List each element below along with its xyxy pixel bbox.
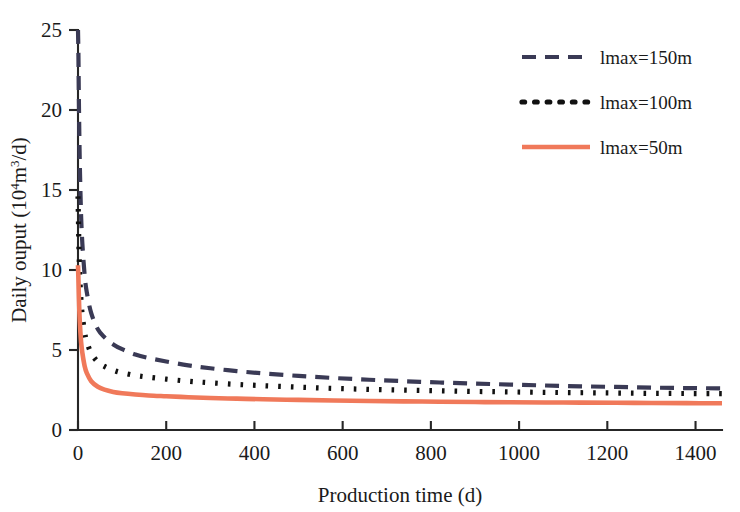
x-tick-label: 0 [73,441,84,465]
y-axis-tick-labels: 0510152025 [41,18,62,442]
y-tick-label: 0 [52,418,63,442]
x-tick-label: 1400 [675,441,717,465]
series-line-lmax100m [78,196,722,393]
chart-plot-area: 0510152025 0200400600800100012001400 Dai… [0,0,740,512]
y-tick-label: 5 [52,338,63,362]
y-tick-label: 25 [41,18,62,42]
y-axis-title-middle: m [7,167,31,183]
y-tick-label: 10 [41,258,62,282]
x-tick-label: 1000 [498,441,540,465]
y-axis-title-suffix: /d) [7,137,31,160]
series-line-lmax50m [78,265,722,403]
x-tick-label: 800 [415,441,447,465]
chart-figure: 0510152025 0200400600800100012001400 Dai… [0,0,740,512]
x-axis-ticks [78,421,696,430]
y-axis-title-prefix: Daily ouput (10 [7,190,31,323]
x-axis-title: Production time (d) [318,483,482,507]
y-axis-title: Daily ouput (104m3/d) [7,137,32,323]
legend-label-2: lmax=100m [600,92,692,113]
x-tick-label: 200 [150,441,182,465]
chart-legend: lmax=150mlmax=100mlmax=50m [522,47,692,158]
data-series-group [78,30,722,403]
y-tick-label: 20 [41,98,62,122]
x-axis-tick-labels: 0200400600800100012001400 [73,441,717,465]
legend-label-1: lmax=150m [600,47,692,68]
x-tick-label: 1200 [586,441,628,465]
y-tick-label: 15 [41,178,62,202]
y-axis-ticks [69,30,78,430]
x-tick-label: 400 [239,441,271,465]
series-line-lmax150m [78,30,722,388]
svg-text:Daily ouput (104m3/d): Daily ouput (104m3/d) [7,137,32,323]
legend-label-3: lmax=50m [600,137,683,158]
x-tick-label: 600 [327,441,359,465]
